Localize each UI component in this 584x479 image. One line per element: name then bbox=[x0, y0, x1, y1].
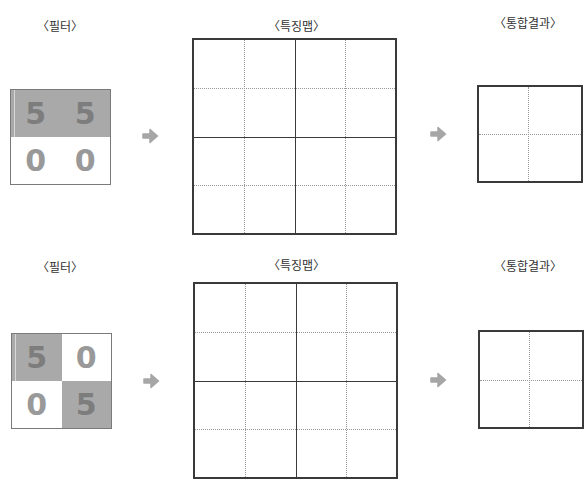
arrow-right-icon bbox=[142, 373, 160, 389]
filter-cell: 5 bbox=[61, 90, 111, 137]
result-grid bbox=[477, 85, 583, 183]
arrow-right-icon bbox=[429, 126, 447, 142]
arrow-right-icon bbox=[141, 128, 159, 144]
feature-map-label: 〈특징맵〉 bbox=[268, 17, 325, 34]
feature-map-grid bbox=[193, 282, 398, 479]
filter-label: 〈필터〉 bbox=[37, 17, 83, 34]
filter-cell: 0 bbox=[61, 137, 111, 184]
arrow-right-icon bbox=[429, 372, 447, 388]
feature-map-label: 〈특징맵〉 bbox=[268, 256, 325, 273]
result-label: 〈통합결과〉 bbox=[494, 257, 562, 274]
result-grid bbox=[478, 330, 584, 429]
result-label: 〈통합결과〉 bbox=[494, 14, 562, 31]
filter-cell: 5 bbox=[62, 381, 112, 428]
filter-cell: 0 bbox=[62, 334, 112, 381]
filter-label: 〈필터〉 bbox=[37, 258, 83, 275]
filter-cell: 5 bbox=[11, 90, 61, 137]
filter-cell: 5 bbox=[12, 334, 62, 381]
filter-cell: 0 bbox=[11, 137, 61, 184]
filter-grid: 5 0 0 5 bbox=[11, 333, 112, 429]
filter-grid: 5 5 0 0 bbox=[10, 89, 111, 185]
filter-cell: 0 bbox=[12, 381, 62, 428]
feature-map-grid bbox=[192, 38, 397, 235]
